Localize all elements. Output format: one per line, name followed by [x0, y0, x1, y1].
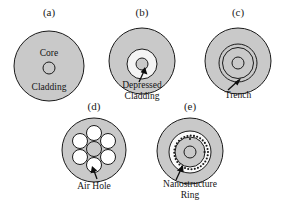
- panel-e: (e): [141, 100, 239, 207]
- air-hole-lower-left-d: [73, 150, 88, 165]
- air-hole-lower-right-d: [101, 150, 116, 165]
- core-circle-c: [232, 57, 244, 69]
- core-circle-e: [184, 146, 196, 158]
- panel-c: (c) Trench: [193, 6, 283, 110]
- core-circle-a: [43, 62, 55, 74]
- nanostructure-ring-label-line1: Nanostructure: [141, 179, 239, 190]
- trench-label-c: Trench: [193, 90, 283, 101]
- air-hole-upper-left-d: [73, 134, 88, 149]
- nanostructure-ring-label-line2: Ring: [141, 190, 239, 201]
- air-hole-top-d: [87, 126, 102, 141]
- nanostructure-ring-label-e: Nanostructure Ring: [141, 179, 239, 201]
- panel-d: (d) Air Hole: [48, 100, 140, 205]
- depressed-cladding-label-line1: Depressed: [97, 80, 187, 91]
- core-label-a: Core: [6, 48, 92, 59]
- core-circle-b: [136, 58, 148, 70]
- depressed-cladding-label-b: Depressed Cladding: [97, 80, 187, 102]
- core-circle-d: [87, 142, 102, 157]
- panel-b: (b) Depressed Cladding: [97, 6, 187, 114]
- figure-optical-fiber-cross-sections: (a) Core Cladding (b) Depressed Cladding…: [0, 0, 287, 207]
- air-hole-label-d: Air Hole: [48, 181, 140, 192]
- cladding-label-a: Cladding: [6, 82, 92, 93]
- air-hole-upper-right-d: [101, 134, 116, 149]
- panel-a: (a) Core Cladding: [6, 6, 92, 110]
